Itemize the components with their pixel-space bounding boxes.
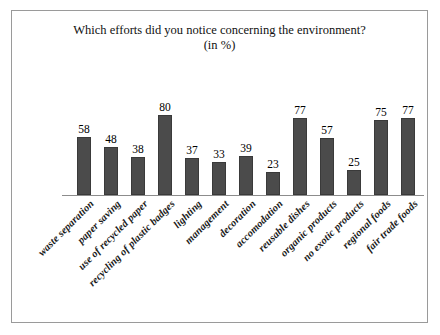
bar-value-label: 25 — [338, 156, 370, 168]
bar-value-label: 80 — [149, 101, 181, 113]
bar-value-label: 39 — [230, 142, 262, 154]
bar-value-label: 77 — [284, 104, 316, 116]
bar-value-label: 57 — [311, 124, 343, 136]
chart-frame: Which efforts did you notice concerning … — [11, 10, 428, 323]
bar-rect — [158, 115, 172, 195]
plot-area: 58 48 38 80 37 33 39 23 — [12, 11, 429, 324]
bar-rect — [266, 172, 280, 195]
bar-rect — [131, 157, 145, 195]
bar-rect — [104, 147, 118, 195]
bar-rect — [401, 118, 415, 195]
bar-rect — [239, 156, 253, 195]
bar-rect — [185, 158, 199, 195]
bar-rect — [77, 137, 91, 195]
bar-rect — [212, 162, 226, 195]
bar-rect — [293, 118, 307, 195]
x-axis-line — [62, 195, 424, 196]
bar-rect — [347, 170, 361, 195]
bar-value-label: 77 — [392, 104, 424, 116]
bar-value-label: 23 — [257, 158, 289, 170]
bar-value-label: 38 — [122, 143, 154, 155]
bar-rect — [320, 138, 334, 195]
bar-rect — [374, 120, 388, 195]
